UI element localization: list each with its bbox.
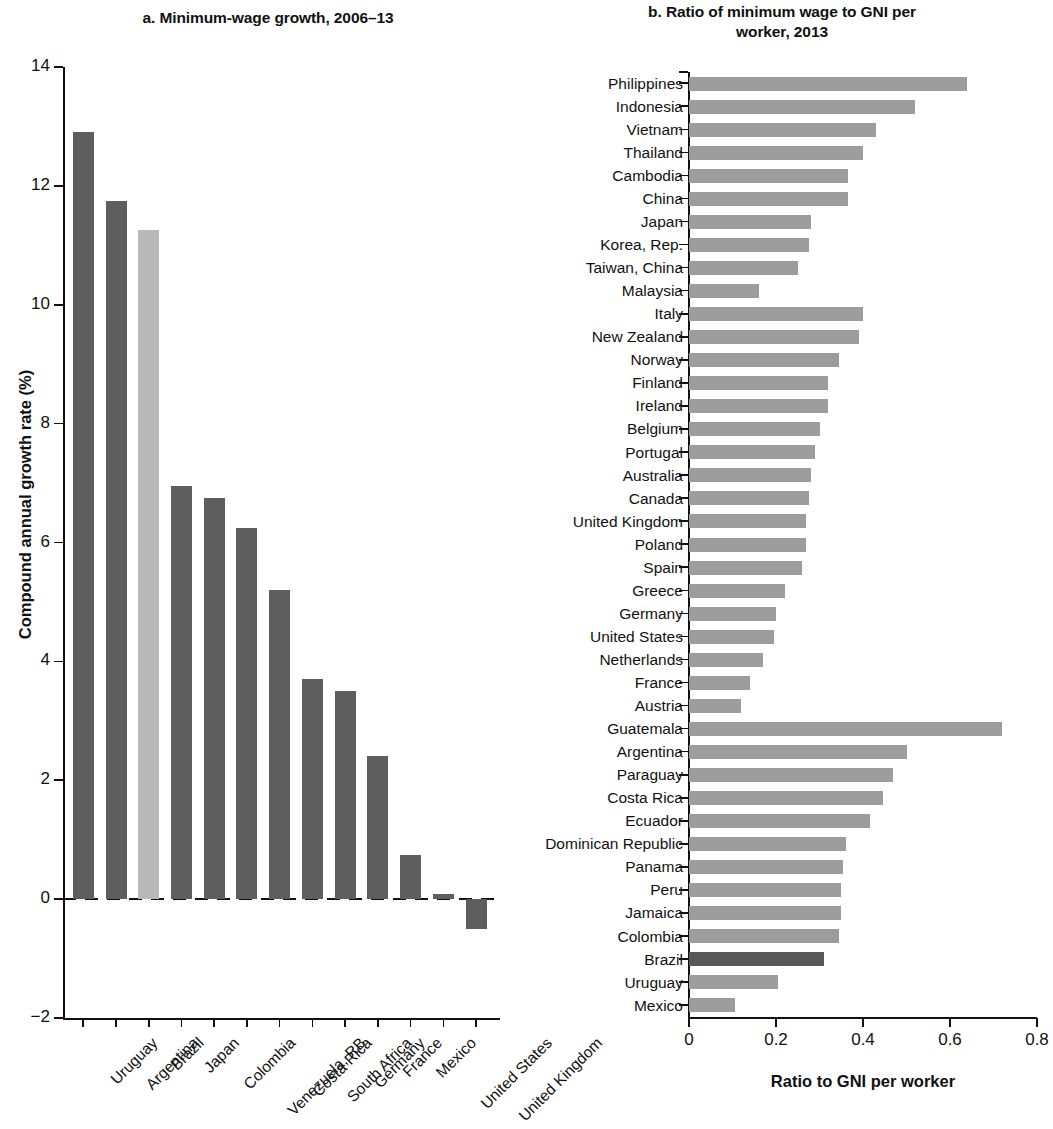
panel-b-row-label: Greece [453, 582, 683, 600]
panel-b-row-label: United Kingdom [453, 513, 683, 531]
panel-b-bar [689, 353, 839, 367]
panel-a-bar [106, 201, 127, 899]
panel-b-y-tick [679, 543, 688, 545]
panel-a-y-tick-label: 14 [6, 56, 50, 76]
panel-b-ratio-min-wage-gni: b. Ratio of minimum wage to GNI per work… [520, 0, 1044, 1129]
panel-b-y-tick [679, 820, 688, 822]
panel-a-bar [367, 756, 388, 899]
panel-b-row-label: Ecuador [453, 812, 683, 830]
panel-b-row-label: United States [453, 628, 683, 646]
panel-b-x-axis-label: Ratio to GNI per worker [688, 1072, 1038, 1091]
panel-b-y-tick [679, 774, 688, 776]
panel-b-y-tick [679, 175, 688, 177]
panel-b-bar [689, 584, 785, 598]
panel-b-x-tick-label: 0.4 [833, 1030, 893, 1050]
panel-b-bar [689, 699, 741, 713]
panel-b-row-label: Peru [453, 881, 683, 899]
panel-b-row-label: Poland [453, 536, 683, 554]
panel-b-bar [689, 860, 843, 874]
panel-b-y-tick [679, 428, 688, 430]
panel-b-x-tick [949, 1018, 951, 1027]
panel-b-y-tick [679, 497, 688, 499]
panel-b-row-label: Spain [453, 559, 683, 577]
panel-a-x-axis-line [63, 1018, 500, 1020]
panel-a-x-tick [475, 1018, 477, 1027]
panel-b-bar [689, 791, 883, 805]
panel-b-bar [689, 538, 806, 552]
panel-b-bar [689, 491, 809, 505]
panel-b-y-tick [679, 82, 688, 84]
panel-a-y-tick [54, 185, 63, 187]
panel-b-bar [689, 814, 870, 828]
panel-a-bar [171, 486, 192, 899]
panel-b-row-label: Korea, Rep. [453, 236, 683, 254]
panel-b-y-tick [679, 613, 688, 615]
panel-b-row-label: Norway [453, 351, 683, 369]
panel-b-bar [689, 975, 778, 989]
panel-a-y-tick [54, 66, 63, 68]
panel-b-bar [689, 123, 876, 137]
panel-b-y-tick [679, 359, 688, 361]
panel-a-x-tick [443, 1018, 445, 1027]
panel-b-y-tick [679, 866, 688, 868]
panel-a-bar [400, 855, 421, 900]
panel-b-bar [689, 929, 839, 943]
panel-b-bar [689, 607, 776, 621]
panel-b-title-line1: b. Ratio of minimum wage to GNI per [648, 3, 916, 20]
panel-b-row-label: Guatemala [453, 720, 683, 738]
panel-b-row-label: Australia [453, 467, 683, 485]
panel-a-y-tick-label: 8 [6, 413, 50, 433]
panel-b-row-label: Jamaica [453, 904, 683, 922]
panel-b-bar [689, 998, 735, 1012]
panel-b-bar [689, 215, 811, 229]
panel-b-y-tick [679, 336, 688, 338]
panel-a-category-label: Brazil [167, 1034, 207, 1074]
panel-b-row-label: Germany [453, 605, 683, 623]
panel-a-bar [236, 528, 257, 899]
panel-b-row-label: Taiwan, China [453, 259, 683, 277]
panel-b-row-label: France [453, 674, 683, 692]
panel-b-bar [689, 768, 893, 782]
panel-b-y-tick [679, 566, 688, 568]
panel-b-x-tick-label: 0.6 [920, 1030, 980, 1050]
panel-a-bar [204, 498, 225, 899]
panel-b-row-label: Ireland [453, 397, 683, 415]
panel-b-row-label: Austria [453, 697, 683, 715]
panel-a-x-tick [246, 1018, 248, 1027]
panel-b-row-label: Thailand [453, 144, 683, 162]
panel-b-bar [689, 883, 841, 897]
panel-b-x-tick [688, 1018, 690, 1027]
panel-b-bar [689, 514, 806, 528]
panel-a-x-tick [82, 1018, 84, 1027]
panel-b-bar [689, 745, 907, 759]
panel-b-row-label: Colombia [453, 928, 683, 946]
panel-a-y-tick [54, 1017, 63, 1019]
panel-a-y-tick-label: 2 [6, 769, 50, 789]
panel-b-bar [689, 468, 811, 482]
panel-b-y-tick [679, 843, 688, 845]
panel-b-row-label: New Zealand [453, 328, 683, 346]
panel-b-y-tick [679, 728, 688, 730]
panel-b-row-label: Argentina [453, 743, 683, 761]
panel-b-y-tick [679, 221, 688, 223]
panel-a-x-tick [213, 1018, 215, 1027]
panel-b-y-tick [679, 520, 688, 522]
panel-b-y-tick [679, 313, 688, 315]
panel-b-y-tick [679, 382, 688, 384]
panel-a-category-label: Japan [201, 1034, 244, 1077]
panel-b-y-tick [679, 912, 688, 914]
panel-a-y-tick-label: 12 [6, 175, 50, 195]
panel-b-bar [689, 261, 798, 275]
panel-a-bar [433, 894, 454, 899]
panel-a-y-tick-label: −2 [6, 1007, 50, 1027]
panel-b-row-label: China [453, 190, 683, 208]
panel-b-y-tick [679, 267, 688, 269]
panel-b-title-line2: worker, 2013 [736, 23, 828, 40]
panel-b-bar [689, 376, 828, 390]
panel-b-y-tick [679, 751, 688, 753]
panel-b-row-label: Portugal [453, 444, 683, 462]
panel-b-x-tick-label: 0 [659, 1030, 719, 1050]
panel-b-bar [689, 561, 802, 575]
panel-b-bar [689, 330, 859, 344]
